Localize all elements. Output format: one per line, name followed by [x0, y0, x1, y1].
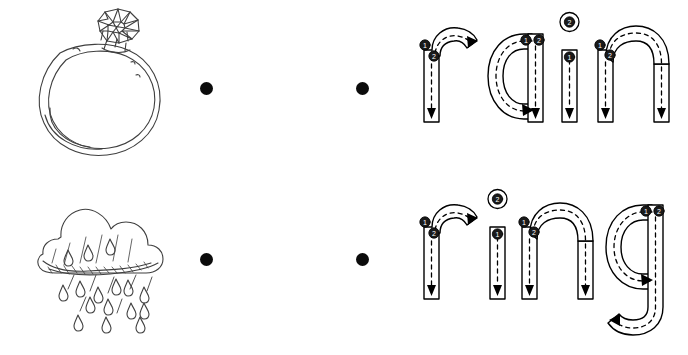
stroke-badge-2: 2	[532, 229, 536, 236]
stroke-badge-1: 1	[423, 219, 427, 226]
tracing-word-ring: ring 1 2	[410, 177, 688, 355]
stroke-badge-1: 1	[496, 231, 500, 238]
match-dot-left-row-bottom[interactable]	[200, 253, 213, 266]
tracing-letter-g: 1 2	[606, 205, 664, 335]
rain-cloud-sketch-icon	[18, 177, 198, 355]
stroke-badge-2: 2	[568, 19, 572, 26]
match-dot-right-row-top[interactable]	[356, 82, 369, 95]
worksheet-row-top: ring	[0, 0, 688, 178]
stroke-badge-2: 2	[657, 208, 661, 215]
worksheet-row-bottom: rain	[0, 177, 688, 355]
tracing-letters-ring: 1 2 1 2	[410, 177, 688, 355]
stroke-badge-2: 2	[432, 230, 436, 237]
tracing-letter-r: 1 2	[420, 28, 478, 122]
match-dot-right-row-bottom[interactable]	[356, 253, 369, 266]
picture-ring-sketch: ring	[18, 0, 198, 178]
tracing-letters-rain: 1 2	[410, 0, 688, 178]
stroke-badge-1: 1	[568, 54, 572, 61]
tracing-word-rain: rain	[410, 0, 688, 178]
stroke-badge-1: 1	[524, 37, 528, 44]
tracing-letter-r: 1 2	[420, 205, 478, 299]
worksheet-page: ring	[0, 0, 688, 355]
tracing-letter-i: 1 2	[488, 190, 507, 300]
picture-rain-cloud-sketch: rain	[18, 177, 198, 355]
tracing-letter-n: 1 2	[595, 26, 669, 122]
tracing-letter-i: 1 2	[560, 13, 579, 123]
tracing-letter-n: 1 2	[519, 203, 593, 299]
match-dot-left-row-top[interactable]	[200, 82, 213, 95]
stroke-badge-1: 1	[423, 42, 427, 49]
stroke-badge-1: 1	[598, 42, 602, 49]
stroke-badge-2: 2	[537, 37, 541, 44]
ring-sketch-icon	[18, 0, 198, 178]
stroke-badge-1: 1	[644, 208, 648, 215]
stroke-badge-2: 2	[432, 53, 436, 60]
stroke-badge-1: 1	[522, 219, 526, 226]
stroke-badge-2: 2	[608, 52, 612, 59]
stroke-badge-2: 2	[496, 196, 500, 203]
tracing-letter-a: 1 2	[488, 34, 544, 122]
